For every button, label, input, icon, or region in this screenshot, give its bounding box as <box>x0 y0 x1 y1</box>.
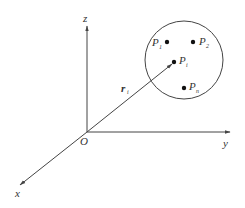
point-p1-dot <box>165 40 169 44</box>
point-pi-dot <box>172 60 176 64</box>
point-pn-subscript: n <box>196 88 199 94</box>
point-p2-label: P <box>198 35 206 47</box>
y-axis-label: y <box>222 137 228 149</box>
vector-label: r <box>121 82 126 94</box>
point-p2-dot <box>191 40 195 44</box>
z-axis-label: z <box>82 12 88 24</box>
point-pn-dot <box>182 86 186 90</box>
coordinate-diagram: z y x O r i P 1 P 2 P i P n <box>0 0 245 208</box>
point-p1-subscript: 1 <box>159 44 162 50</box>
x-axis-label: x <box>14 187 20 199</box>
point-p2-subscript: 2 <box>206 43 209 49</box>
point-p1-label: P <box>151 36 159 48</box>
x-axis <box>20 132 87 185</box>
point-pn-label: P <box>188 80 196 92</box>
vector-subscript: i <box>127 89 129 95</box>
position-vector-ri <box>87 64 172 132</box>
point-pi-subscript: i <box>186 62 188 68</box>
origin-label: O <box>80 135 88 147</box>
point-pi-label: P <box>178 54 186 66</box>
